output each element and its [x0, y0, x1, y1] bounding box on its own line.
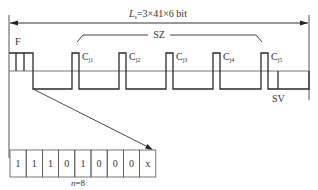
n-label: n=8 — [71, 178, 86, 188]
bit-value: 0 — [64, 158, 69, 169]
bit-cell: 0 — [123, 150, 139, 177]
bit-value: 0 — [129, 158, 134, 169]
bit-cell: 0 — [91, 150, 107, 177]
arrowhead-right-icon — [300, 21, 308, 26]
expansion-arrow-line — [33, 89, 150, 148]
bit-value: 1 — [32, 158, 37, 169]
sv-label: SV — [272, 93, 286, 104]
expansion-arrowhead-icon — [145, 144, 153, 150]
pulse-label-1: Cj1 — [82, 51, 93, 63]
arrowhead-left-icon — [10, 21, 18, 26]
bit-cell: x — [140, 150, 156, 177]
bit-value: 1 — [16, 158, 21, 169]
sz-label: SZ — [153, 29, 165, 40]
bit-value: 0 — [113, 158, 118, 169]
bit-value: x — [145, 158, 150, 169]
bit-cell: 1 — [75, 150, 91, 177]
sz-bracket — [77, 35, 148, 42]
bit-cell: 0 — [107, 150, 123, 177]
pulse-label-2: Cj2 — [129, 51, 140, 63]
pulse-label-3: Cj3 — [176, 51, 187, 63]
bit-cell: 0 — [59, 150, 75, 177]
pulse-label-4: Cj4 — [223, 51, 234, 63]
sz-bracket-right — [170, 35, 262, 42]
pulse-label-5: Cj5 — [271, 51, 282, 63]
bit-cell: 1 — [42, 150, 58, 177]
frame-label: F — [15, 36, 21, 47]
bit-cell: 1 — [10, 150, 26, 177]
length-label: Ls=3×41×6 bit — [128, 8, 187, 20]
bit-value: 1 — [80, 158, 85, 169]
frame-structure-diagram: Ls=3×41×6 bit SZ F SV Cj1Cj2Cj3Cj4Cj5 11… — [0, 0, 318, 190]
bit-value: 1 — [48, 158, 53, 169]
bit-value: 0 — [97, 158, 102, 169]
bit-cell: 1 — [26, 150, 42, 177]
